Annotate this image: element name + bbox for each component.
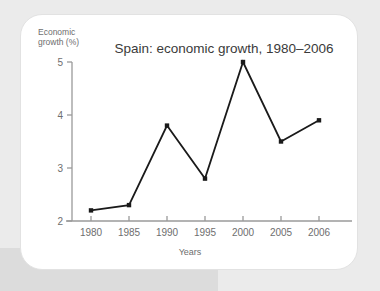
data-point-marker — [165, 123, 169, 127]
y-tick-label: 4 — [57, 110, 63, 121]
data-point-markers — [89, 60, 321, 213]
chart-axes — [66, 62, 352, 221]
line-chart-svg: 2345 1980198519901995200020052006 — [21, 15, 359, 271]
x-tick-label: 2000 — [232, 227, 255, 238]
data-point-marker — [127, 203, 131, 207]
chart-card: Economic growth (%) Spain: economic grow… — [20, 14, 358, 270]
data-point-marker — [317, 118, 321, 122]
x-tick-label: 2005 — [270, 227, 293, 238]
y-tick-label: 2 — [57, 216, 63, 227]
x-tick-label: 1995 — [194, 227, 217, 238]
data-point-marker — [279, 139, 283, 143]
x-axis-title: Years — [21, 247, 359, 257]
series-polyline — [91, 62, 319, 210]
y-tick-label: 5 — [57, 57, 63, 68]
y-tick-label: 3 — [57, 163, 63, 174]
data-point-marker — [203, 176, 207, 180]
data-point-marker — [241, 60, 245, 64]
y-axis-ticks: 2345 — [57, 57, 72, 227]
x-tick-label: 2006 — [308, 227, 331, 238]
data-point-marker — [89, 208, 93, 212]
x-axis-ticks: 1980198519901995200020052006 — [80, 216, 331, 238]
x-tick-label: 1980 — [80, 227, 103, 238]
data-line-series — [91, 62, 319, 210]
x-tick-label: 1985 — [118, 227, 141, 238]
x-tick-label: 1990 — [156, 227, 179, 238]
chart-plot-area: Economic growth (%) Spain: economic grow… — [21, 15, 359, 271]
